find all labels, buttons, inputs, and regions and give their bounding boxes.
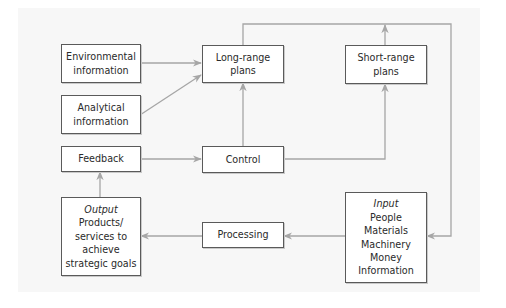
box-label-line: achieve [82,243,119,256]
input-box: Input People Materials Machinery Money I… [345,192,427,283]
box-label-line: Products/ [79,216,124,229]
box-label-line: strategic goals [66,257,137,270]
box-heading: Input [374,197,399,210]
control-box: Control [202,146,284,173]
box-label-line: information [73,115,128,128]
box-label-line: Analytical [77,101,124,114]
box-label-line: information [73,64,128,77]
long-range-plans-box: Long-range plans [202,45,284,83]
box-label-line: People [370,211,402,224]
box-label-line: plans [373,65,399,78]
processing-box: Processing [202,222,284,248]
box-label-line: services to [75,230,127,243]
short-range-plans-box: Short-range plans [345,45,427,84]
arrow-analytical-to-longrange [140,75,201,115]
box-label-line: Information [358,264,414,277]
output-box: Output Products/ services to achieve str… [61,197,141,276]
box-label: Processing [217,228,268,241]
environmental-information-box: Environmental information [61,44,141,83]
box-heading: Output [84,203,117,216]
box-label-line: plans [230,64,256,77]
box-label-line: Materials [364,224,408,237]
arrow-control-to-shortrange [283,84,385,159]
box-label-line: Long-range [216,51,271,64]
box-label-line: Short-range [357,51,414,64]
box-label: Feedback [78,152,124,165]
feedback-box: Feedback [61,146,141,172]
box-label-line: Machinery [361,238,411,251]
box-label: Control [226,153,261,166]
analytical-information-box: Analytical information [61,95,141,134]
box-label-line: Environmental [66,50,136,63]
box-label-line: Money [370,251,402,264]
